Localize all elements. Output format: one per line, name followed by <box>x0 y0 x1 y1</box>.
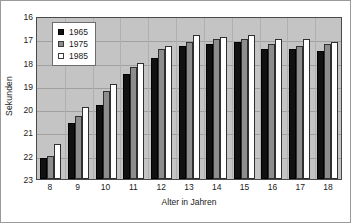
chart-figure: Sekunden 1617181920212223 196519751985 8… <box>0 0 351 223</box>
legend-item-1965: 1965 <box>58 26 88 38</box>
x-axis-tick-label: 11 <box>119 182 147 195</box>
bar-1965-age-9 <box>68 123 75 179</box>
legend-label: 1985 <box>69 51 88 61</box>
legend-label: 1965 <box>69 27 88 37</box>
bar-group <box>92 18 120 179</box>
legend-swatch-icon <box>58 29 64 35</box>
legend-item-1975: 1975 <box>58 38 88 50</box>
bar-1985-age-13 <box>193 35 200 179</box>
bar-group <box>258 18 286 179</box>
legend-swatch-icon <box>58 53 64 59</box>
bar-group <box>203 18 231 179</box>
x-axis-tick-label: 15 <box>231 182 259 195</box>
bar-1985-age-8 <box>54 144 61 179</box>
bar-group <box>230 18 258 179</box>
bar-group <box>313 18 341 179</box>
bar-1985-age-12 <box>165 46 172 179</box>
bar-1985-age-10 <box>110 84 117 179</box>
legend-swatch-icon <box>58 41 64 47</box>
x-axis-tick-label: 14 <box>203 182 231 195</box>
bar-1985-age-16 <box>275 39 282 179</box>
bar-1985-age-18 <box>331 42 338 179</box>
bar-1965-age-11 <box>123 74 130 179</box>
bar-1975-age-18 <box>324 44 331 179</box>
x-axis-tick-label: 16 <box>259 182 287 195</box>
bar-1975-age-11 <box>130 67 137 179</box>
legend-label: 1975 <box>69 39 88 49</box>
y-axis-title-text: Sekunden <box>4 76 14 116</box>
bar-1975-age-10 <box>103 91 110 179</box>
bar-group <box>286 18 314 179</box>
bar-1965-age-14 <box>206 44 213 179</box>
y-axis-tick-label: 16 <box>24 12 33 22</box>
legend-item-1985: 1985 <box>58 50 88 62</box>
bar-1975-age-15 <box>241 39 248 179</box>
y-axis-tick-label: 17 <box>24 35 33 45</box>
legend: 196519751985 <box>52 22 96 66</box>
bar-1975-age-9 <box>75 116 82 179</box>
x-axis-tick-label: 8 <box>36 182 64 195</box>
x-axis-tick-label: 13 <box>175 182 203 195</box>
bar-group <box>148 18 176 179</box>
y-axis-title: Sekunden <box>2 1 16 191</box>
y-axis-tick-label: 19 <box>24 82 33 92</box>
bar-1965-age-10 <box>96 105 103 180</box>
bar-1985-age-14 <box>220 37 227 179</box>
bar-1985-age-15 <box>248 35 255 179</box>
bar-1975-age-14 <box>213 39 220 179</box>
bar-1965-age-12 <box>151 58 158 179</box>
y-axis-tick-label: 20 <box>24 105 33 115</box>
bar-1975-age-17 <box>296 46 303 179</box>
bar-group <box>120 18 148 179</box>
x-axis-tick-labels: 89101112131415161718 <box>36 182 342 195</box>
bar-1975-age-12 <box>158 49 165 179</box>
bar-1965-age-18 <box>317 51 324 179</box>
bar-1965-age-17 <box>289 49 296 179</box>
y-axis-tick-label: 23 <box>24 175 33 185</box>
bar-1985-age-17 <box>303 39 310 179</box>
y-axis-tick-label: 18 <box>24 59 33 69</box>
bar-1975-age-16 <box>268 44 275 179</box>
x-axis-tick-label: 12 <box>147 182 175 195</box>
y-axis-tick-label: 21 <box>24 128 33 138</box>
x-axis-tick-label: 9 <box>64 182 92 195</box>
bar-1975-age-13 <box>186 42 193 179</box>
y-axis-tick-label: 22 <box>24 152 33 162</box>
x-axis-tick-label: 10 <box>92 182 120 195</box>
x-axis-tick-label: 18 <box>314 182 342 195</box>
x-axis-tick-label: 17 <box>286 182 314 195</box>
bar-group <box>175 18 203 179</box>
bar-1975-age-8 <box>47 156 54 179</box>
bar-1985-age-9 <box>82 107 89 179</box>
y-axis-tick-labels: 1617181920212223 <box>15 17 35 180</box>
bar-1965-age-16 <box>261 49 268 179</box>
bar-1985-age-11 <box>137 63 144 179</box>
bar-1965-age-8 <box>40 158 47 179</box>
bar-1965-age-13 <box>179 46 186 179</box>
bar-1965-age-15 <box>234 42 241 179</box>
x-axis-title: Alter in Jahren <box>36 197 342 207</box>
